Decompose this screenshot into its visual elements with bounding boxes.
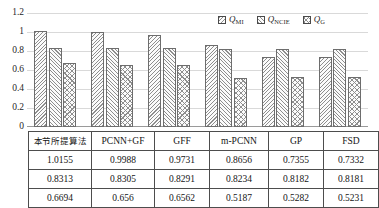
bar-group bbox=[148, 0, 190, 136]
table-header-cell: m-PCNN bbox=[210, 132, 269, 151]
bar bbox=[262, 57, 275, 127]
bar bbox=[163, 48, 176, 127]
grouped-bar-chart-with-data-table: 00.20.40.60.811.2 QMIQNCIEQG 本节所提算法PCNN+… bbox=[0, 0, 368, 207]
table-cell: 0.8291 bbox=[155, 170, 210, 189]
table-cell: 0.7332 bbox=[324, 151, 379, 170]
table-row: 0.83130.83050.82910.82340.81820.8181 bbox=[29, 170, 379, 189]
bar bbox=[34, 31, 47, 127]
table-header-cell: GP bbox=[269, 132, 324, 151]
bar bbox=[333, 49, 346, 127]
table-cell: 0.5231 bbox=[324, 189, 379, 208]
table-cell: 0.9988 bbox=[92, 151, 155, 170]
table-cell: 0.6562 bbox=[155, 189, 210, 208]
table-header-cell: 本节所提算法 bbox=[29, 132, 92, 151]
y-axis-tick-label: 0 bbox=[19, 122, 24, 132]
table-header-cell: PCNN+GF bbox=[92, 132, 155, 151]
legend-label: QNCIE bbox=[268, 15, 290, 26]
table-header-cell: FSD bbox=[324, 132, 379, 151]
y-axis-tick-label: 0.8 bbox=[12, 46, 24, 56]
bar bbox=[234, 78, 247, 127]
table-cell: 0.656 bbox=[92, 189, 155, 208]
y-axis-tick-label: 0.6 bbox=[12, 65, 24, 75]
table-cell: 0.8313 bbox=[29, 170, 92, 189]
legend-swatch-icon bbox=[303, 16, 311, 24]
bar bbox=[91, 32, 104, 127]
bar-group bbox=[91, 0, 133, 136]
table-cell: 0.8234 bbox=[210, 170, 269, 189]
y-axis-tick-label: 1.2 bbox=[12, 8, 24, 18]
legend-swatch-icon bbox=[257, 16, 265, 24]
table-cell: 0.8656 bbox=[210, 151, 269, 170]
table-cell: 0.9731 bbox=[155, 151, 210, 170]
table-header-cell: GFF bbox=[155, 132, 210, 151]
y-axis-tick-label: 0.4 bbox=[12, 84, 24, 94]
legend-item[interactable]: QNCIE bbox=[257, 15, 290, 26]
legend-item[interactable]: QMI bbox=[218, 15, 244, 26]
bar bbox=[148, 35, 161, 127]
legend-label: QMI bbox=[229, 15, 244, 26]
bar bbox=[49, 48, 62, 127]
table-cell: 0.8182 bbox=[269, 170, 324, 189]
bar bbox=[291, 77, 304, 127]
bar bbox=[177, 65, 190, 127]
bar bbox=[63, 63, 76, 127]
bar bbox=[219, 49, 232, 127]
table-header-row: 本节所提算法PCNN+GFGFFm-PCNNGPFSD bbox=[29, 132, 379, 151]
bar bbox=[348, 77, 361, 127]
legend-item[interactable]: QG bbox=[303, 15, 325, 26]
bar bbox=[276, 49, 289, 127]
legend: QMIQNCIEQG bbox=[218, 13, 325, 27]
bar bbox=[106, 48, 119, 127]
y-axis-tick-label: 0.2 bbox=[12, 103, 24, 113]
table-cell: 0.8305 bbox=[92, 170, 155, 189]
bar bbox=[319, 57, 332, 127]
bar bbox=[205, 45, 218, 127]
table-cell: 0.5282 bbox=[269, 189, 324, 208]
table-cell: 0.6694 bbox=[29, 189, 92, 208]
legend-label: QG bbox=[314, 15, 325, 26]
table-cell: 1.0155 bbox=[29, 151, 92, 170]
data-table: 本节所提算法PCNN+GFGFFm-PCNNGPFSD1.01550.99880… bbox=[28, 131, 379, 208]
table-cell: 0.7355 bbox=[269, 151, 324, 170]
bar bbox=[120, 65, 133, 127]
plot-area: 00.20.40.60.811.2 QMIQNCIEQG bbox=[0, 0, 368, 136]
data-table-body: 本节所提算法PCNN+GFGFFm-PCNNGPFSD1.01550.99880… bbox=[29, 132, 379, 208]
y-axis: 00.20.40.60.811.2 bbox=[0, 0, 27, 136]
table-cell: 0.8181 bbox=[324, 170, 379, 189]
bar-group bbox=[34, 0, 76, 136]
table-row: 0.66940.6560.65620.51870.52820.5231 bbox=[29, 189, 379, 208]
table-row: 1.01550.99880.97310.86560.73550.7332 bbox=[29, 151, 379, 170]
table-cell: 0.5187 bbox=[210, 189, 269, 208]
y-axis-tick-label: 1 bbox=[19, 27, 24, 37]
legend-swatch-icon bbox=[218, 16, 226, 24]
